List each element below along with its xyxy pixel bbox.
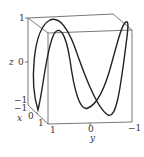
y-axis-label: y	[89, 133, 96, 143]
x-tick-1: 1	[38, 118, 44, 128]
z-tick-1: 1	[19, 13, 25, 23]
y-tick-1: 1	[50, 125, 56, 135]
z-axis-label: z	[8, 57, 14, 67]
x-tick-neg1: −1	[14, 103, 27, 113]
x-tick-0: 0	[28, 111, 34, 121]
z-tick-0: 0	[18, 57, 24, 67]
bounding-box	[28, 14, 132, 124]
3d-curve-plot: 1 z 0 −1 −1 x 0 1 1 0 y −1	[0, 0, 144, 157]
y-tick-neg1: −1	[128, 123, 141, 133]
tick-marks	[25, 18, 90, 126]
x-axis-label: x	[17, 113, 22, 123]
